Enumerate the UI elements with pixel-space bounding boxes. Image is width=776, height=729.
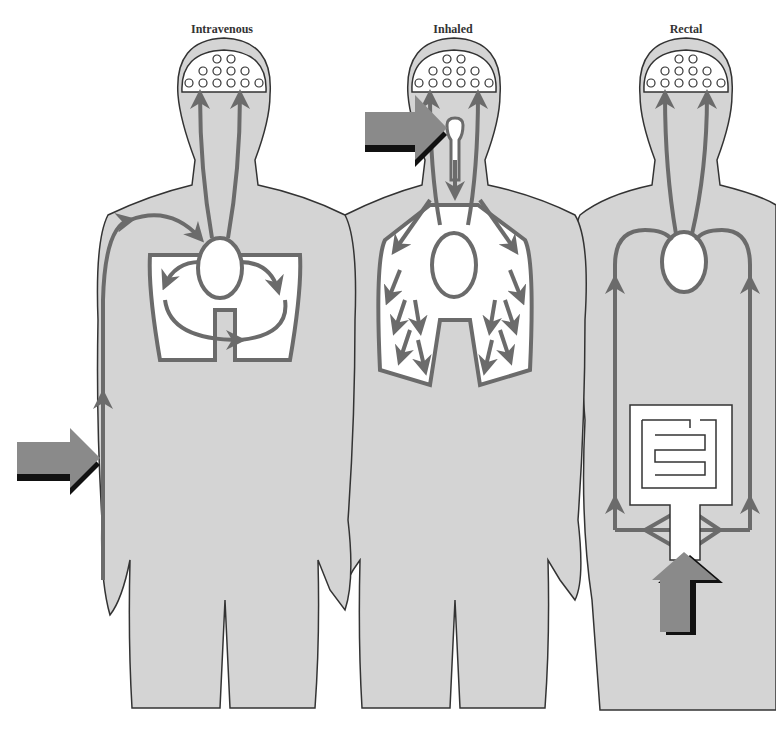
body-silhouette [97, 38, 355, 708]
entry-arrow-intravenous [17, 428, 100, 495]
heart [198, 238, 242, 298]
figure-intravenous [17, 38, 356, 708]
figure-rectal [574, 38, 776, 710]
heart [432, 233, 476, 297]
heart [662, 232, 706, 292]
routes-diagram [0, 0, 776, 729]
figure-inhaled [335, 38, 586, 708]
